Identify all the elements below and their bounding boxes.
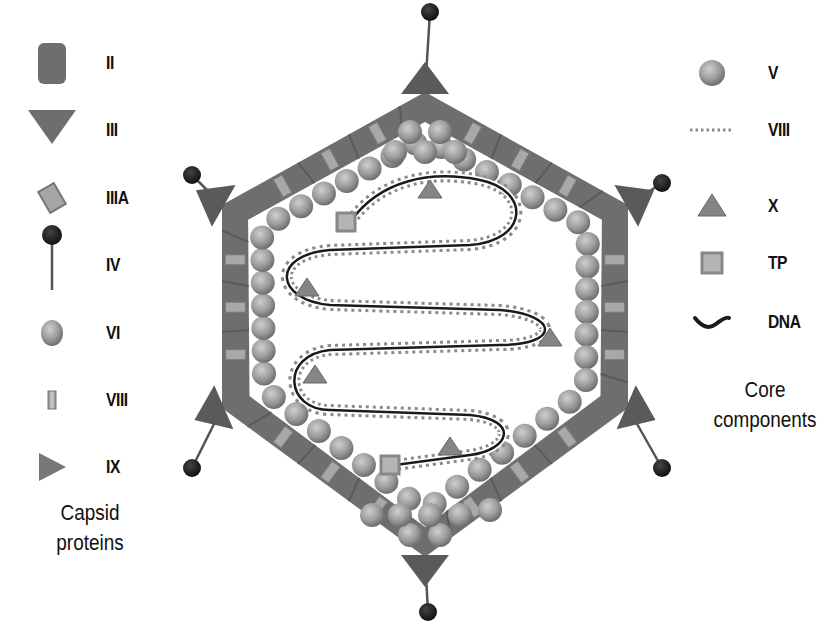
- core-sphere: [575, 255, 599, 279]
- core-sphere: [543, 198, 567, 222]
- penton-triangle: [401, 62, 449, 94]
- terminal-protein: [381, 456, 399, 474]
- capsid-viii-bar: [605, 255, 625, 265]
- protein-vi-icon: [41, 320, 63, 346]
- core-sphere: [289, 194, 313, 218]
- caption-line-1: Capsid: [38, 498, 141, 528]
- protein-ix-icon: [39, 453, 66, 481]
- legend-label-iv: IV: [106, 254, 120, 276]
- core-sphere: [448, 503, 472, 527]
- caption-line-2: components: [701, 405, 830, 435]
- adenovirus-diagram: II III IIIA IV VI VIII IX Capsid protein…: [0, 0, 837, 644]
- core-sphere: [358, 156, 382, 180]
- core-sphere: [478, 498, 502, 522]
- capsid-viii-bar: [226, 350, 246, 360]
- core-sphere: [312, 182, 336, 206]
- fiber-knob: [653, 459, 671, 477]
- core-sphere: [575, 323, 599, 347]
- capsid-proteins-caption: Capsid proteins: [38, 498, 141, 558]
- legend-label-tp: TP: [768, 252, 787, 274]
- core-sphere: [443, 140, 467, 164]
- core-sphere: [266, 207, 290, 231]
- terminal-protein-icon: [702, 253, 722, 273]
- core-sphere: [251, 293, 275, 317]
- core-sphere: [250, 248, 274, 272]
- core-sphere: [468, 458, 492, 482]
- protein-iiia-icon: [38, 183, 66, 213]
- core-sphere: [513, 424, 537, 448]
- capsid-viii-bar: [225, 255, 245, 265]
- caption-line-1: Core: [701, 375, 830, 405]
- core-sphere: [413, 140, 437, 164]
- capsid-viii-bar: [604, 350, 624, 360]
- core-sphere: [574, 368, 598, 392]
- penton-base-iii-icon: [28, 110, 76, 144]
- core-sphere: [329, 436, 353, 460]
- protein-x-icon: [698, 194, 726, 216]
- core-sphere: [252, 362, 276, 386]
- dna-icon: [695, 318, 729, 327]
- core-sphere: [428, 120, 452, 144]
- core-sphere: [335, 169, 359, 193]
- legend-label-iii: III: [106, 119, 118, 141]
- core-sphere: [352, 453, 376, 477]
- core-sphere: [251, 271, 275, 295]
- core-sphere: [558, 390, 582, 414]
- terminal-protein: [337, 213, 355, 231]
- core-sphere: [521, 185, 545, 209]
- penton-base: [401, 555, 449, 587]
- core-sphere: [252, 339, 276, 363]
- core-sphere: [574, 345, 598, 369]
- protein-v-icon: [699, 60, 725, 86]
- legend-label-viii-core: VIII: [768, 119, 790, 141]
- core-sphere: [388, 503, 412, 527]
- core-sphere: [445, 475, 469, 499]
- fiber-knob: [653, 174, 671, 192]
- protein-viii-icon: [48, 391, 56, 409]
- core-components-caption: Core components: [701, 375, 830, 435]
- fiber-knob-iv-icon: [42, 225, 62, 245]
- penton-base: [401, 62, 449, 94]
- caption-line-2: proteins: [38, 528, 141, 558]
- core-sphere: [383, 140, 407, 164]
- fiber-knob: [183, 166, 201, 184]
- legend-label-ii: II: [106, 52, 114, 74]
- core-sphere: [418, 503, 442, 527]
- legend-label-dna: DNA: [768, 311, 801, 333]
- core-sphere: [575, 277, 599, 301]
- core-sphere: [251, 316, 275, 340]
- legend-label-x: X: [768, 195, 778, 217]
- legend-label-iiia: IIIA: [106, 187, 129, 209]
- core-sphere: [535, 407, 559, 431]
- fiber-knob: [183, 459, 201, 477]
- legend-label-v: V: [768, 62, 778, 84]
- core-sphere: [360, 503, 384, 527]
- capsid-viii-bar: [605, 302, 625, 312]
- capsid-viii-bar: [225, 302, 245, 312]
- legend-label-ix: IX: [106, 456, 120, 478]
- core-sphere: [566, 210, 590, 234]
- fiber-knob: [421, 3, 439, 21]
- fiber-knob: [419, 603, 437, 621]
- core-sphere: [575, 300, 599, 324]
- core-sphere: [250, 225, 274, 249]
- core-sphere: [307, 419, 331, 443]
- penton-triangle: [401, 555, 449, 587]
- hexon-ii-icon: [38, 43, 66, 84]
- legend-label-viii-capsid: VIII: [106, 389, 128, 411]
- core-sphere: [576, 232, 600, 256]
- core-sphere: [262, 385, 286, 409]
- core-sphere: [398, 120, 422, 144]
- legend-label-vi: VI: [106, 322, 120, 344]
